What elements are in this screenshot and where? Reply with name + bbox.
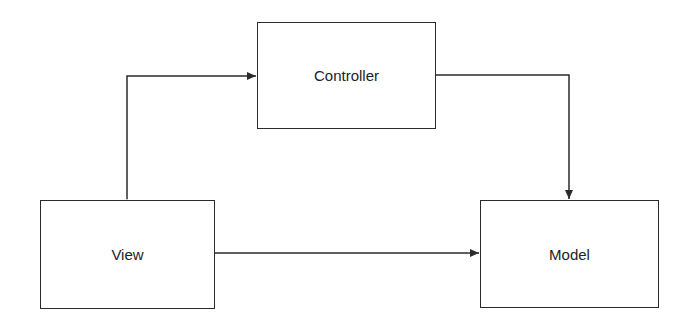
model-node: Model: [480, 200, 659, 308]
model-label: Model: [549, 246, 590, 263]
view-label: View: [111, 246, 143, 263]
controller-node: Controller: [257, 22, 436, 129]
edge-controller-model: [435, 75, 569, 199]
view-node: View: [40, 200, 215, 309]
edge-view-controller: [127, 76, 256, 199]
controller-label: Controller: [314, 67, 379, 84]
